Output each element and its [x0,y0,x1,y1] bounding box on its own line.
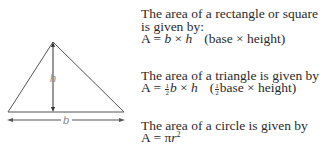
height-label: h [50,72,56,84]
rectangle-formula: A = b × h(base × height) [141,33,326,46]
triangle-area-section: The area of a triangle is given by A = 1… [141,70,326,96]
area-formulas: The area of a rectangle or square is giv… [141,8,326,145]
circle-formula: A = πr2 [141,132,326,145]
triangle-formula: A = 12b × h(12base × height) [141,82,326,95]
rectangle-area-section: The area of a rectangle or square is giv… [141,8,326,46]
base-label: b [63,114,69,126]
triangle-note: (12base × height) [210,80,297,95]
circle-area-section: The area of a circle is given by A = πr2 [141,120,326,145]
triangle-shape [8,42,124,112]
half-fraction: 12 [165,83,169,96]
rectangle-note: (base × height) [204,31,285,46]
triangle-diagram: h b [0,0,140,164]
